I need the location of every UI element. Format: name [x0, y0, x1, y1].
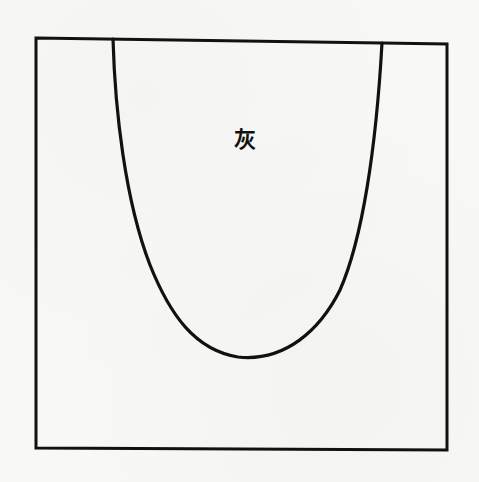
region-label: 灰: [234, 128, 256, 150]
frame-outline: [36, 38, 447, 450]
u-shape-diagram: [0, 0, 479, 482]
page: 灰: [0, 0, 479, 482]
u-curve: [113, 39, 382, 358]
